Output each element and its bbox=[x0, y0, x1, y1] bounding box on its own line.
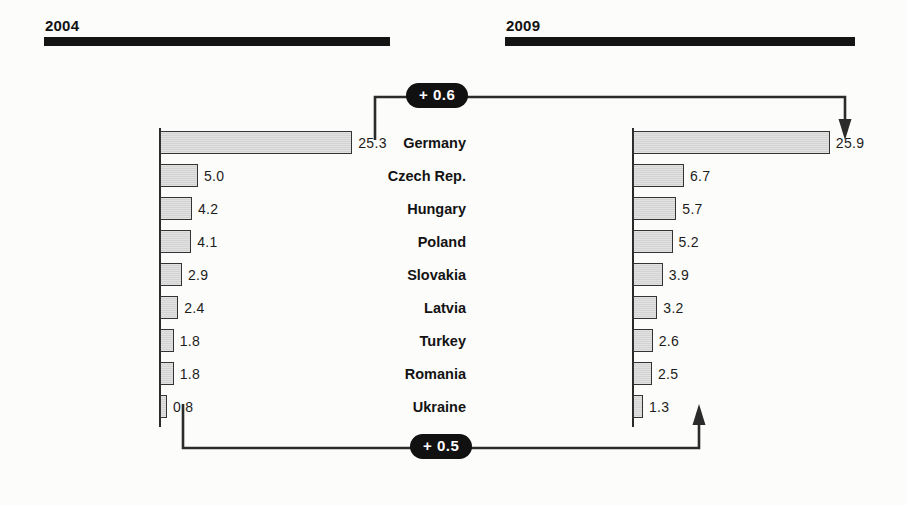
bar-row-label: Turkey bbox=[321, 328, 473, 354]
panel-rule-2004 bbox=[44, 37, 390, 46]
bar bbox=[160, 395, 167, 418]
bar bbox=[160, 296, 178, 319]
panel-header-2009: 2009 bbox=[505, 18, 855, 46]
bar-row-label: Latvia bbox=[321, 295, 473, 321]
bar bbox=[160, 263, 182, 286]
bar-value-label: 1.8 bbox=[180, 330, 200, 352]
bar bbox=[160, 230, 191, 253]
bar-row-label: Ukraine bbox=[321, 394, 473, 420]
bar-value-label: 25.9 bbox=[836, 132, 864, 154]
bar bbox=[633, 329, 653, 352]
delta-badge-bottom: + 0.5 bbox=[410, 434, 472, 459]
bar-row-label: Germany bbox=[321, 130, 473, 156]
bar bbox=[160, 362, 174, 385]
bar-value-label: 0.8 bbox=[173, 396, 193, 418]
bar-row-label: Hungary bbox=[321, 196, 473, 222]
bar-row-label: Romania bbox=[321, 361, 473, 387]
bar bbox=[160, 164, 198, 187]
bar-value-label: 6.7 bbox=[690, 165, 710, 187]
bar-value-label: 2.9 bbox=[188, 264, 208, 286]
arrowhead-up-icon bbox=[693, 404, 706, 425]
bar-value-label: 2.4 bbox=[184, 297, 204, 319]
bar-value-label: 4.1 bbox=[197, 231, 217, 253]
bar bbox=[160, 197, 192, 220]
bar-row-label: Czech Rep. bbox=[321, 163, 473, 189]
bar bbox=[633, 296, 657, 319]
delta-badge-top: + 0.6 bbox=[406, 83, 468, 108]
chart-figure: 2004 2009 Germany 25.3 Czech Rep. 5.0 Hu… bbox=[0, 0, 907, 505]
panel-header-2004: 2004 bbox=[44, 18, 390, 46]
bar-value-label: 4.2 bbox=[198, 198, 218, 220]
bar-value-label: 2.5 bbox=[658, 363, 678, 385]
bar bbox=[633, 131, 830, 154]
bar bbox=[633, 164, 684, 187]
bar-value-label: 3.9 bbox=[669, 264, 689, 286]
bar bbox=[633, 395, 643, 418]
bar-row-label: Slovakia bbox=[321, 262, 473, 288]
bar bbox=[160, 329, 174, 352]
panel-rule-2009 bbox=[505, 37, 855, 46]
bar bbox=[633, 263, 663, 286]
bar-value-label: 3.2 bbox=[663, 297, 683, 319]
bar bbox=[633, 197, 676, 220]
bar bbox=[633, 362, 652, 385]
panel-year-2009: 2009 bbox=[505, 18, 855, 34]
bar-value-label: 2.6 bbox=[659, 330, 679, 352]
bar-row-label: Poland bbox=[321, 229, 473, 255]
bar-value-label: 5.2 bbox=[679, 231, 699, 253]
bar-value-label: 1.3 bbox=[649, 396, 669, 418]
bar-value-label: 5.7 bbox=[682, 198, 702, 220]
bar-value-label: 5.0 bbox=[204, 165, 224, 187]
bar-value-label: 1.8 bbox=[180, 363, 200, 385]
bar bbox=[633, 230, 673, 253]
panel-year-2004: 2004 bbox=[44, 18, 390, 34]
